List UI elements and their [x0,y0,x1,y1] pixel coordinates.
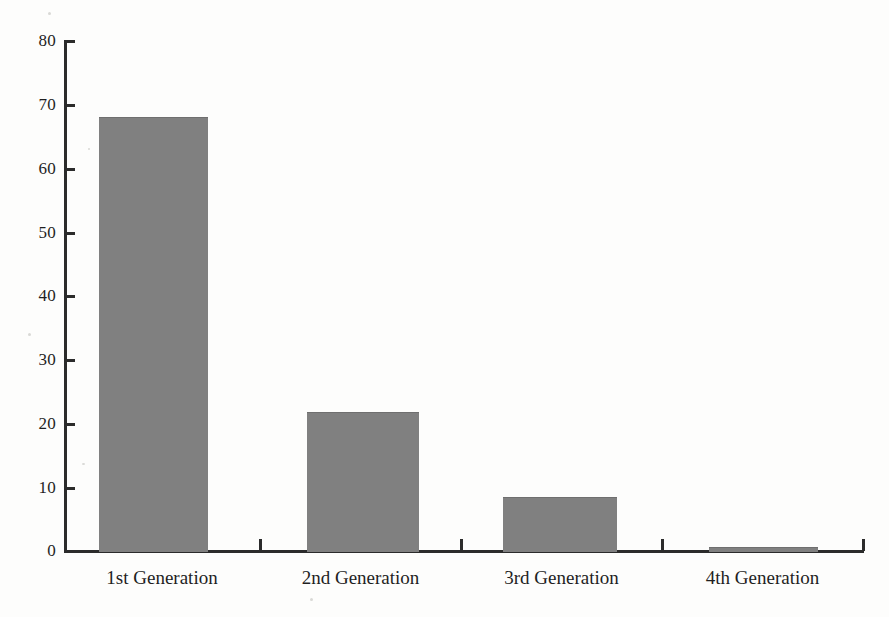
scan-speck [48,12,51,15]
scan-speck [310,598,313,601]
y-axis-label-0: 0 [12,542,56,559]
x-axis-label-1st-generation: 1st Generation [64,566,260,590]
y-axis-label-30: 30 [12,351,56,368]
y-axis-label-70-wrap: 70 [0,96,56,113]
scan-speck [82,463,85,465]
y-axis-label-40-wrap: 40 [0,287,56,304]
bar-2nd-generation [307,412,419,552]
y-axis-tick-70 [64,104,75,107]
x-axis-tick-2 [460,539,463,551]
x-axis-label-3rd-generation: 3rd Generation [462,566,661,590]
y-axis-tick-30 [64,359,75,362]
bar-1st-generation [99,117,208,552]
x-axis-tick-1 [259,539,262,551]
y-axis-tick-80 [64,40,75,43]
bar-4th-generation [709,547,818,552]
y-axis-label-40: 40 [12,287,56,304]
y-axis-label-10: 10 [12,479,56,496]
y-axis-label-50-wrap: 50 [0,224,56,241]
y-axis-label-80-wrap: 80 [0,32,56,49]
y-axis-label-70: 70 [12,96,56,113]
y-axis-label-30-wrap: 30 [0,351,56,368]
x-axis-tick-4 [862,539,865,551]
y-axis-label-60: 60 [12,160,56,177]
y-axis-label-0-wrap: 0 [0,542,56,559]
x-axis-tick-3 [661,539,664,551]
scan-speck [88,148,90,150]
bar-chart: 80 70 60 50 40 30 20 10 0 1st Generation… [0,0,889,617]
x-axis-tick-0 [64,539,67,551]
x-axis-label-2nd-generation: 2nd Generation [261,566,460,590]
y-axis-label-50: 50 [12,224,56,241]
y-axis-label-20-wrap: 20 [0,415,56,432]
y-axis-tick-20 [64,423,75,426]
x-axis-label-4th-generation: 4th Generation [663,566,862,590]
y-axis-tick-40 [64,295,75,298]
y-axis-label-80: 80 [12,32,56,49]
y-axis-label-60-wrap: 60 [0,160,56,177]
y-axis-label-20: 20 [12,415,56,432]
bar-3rd-generation [503,497,617,552]
y-axis-tick-60 [64,168,75,171]
y-axis-label-10-wrap: 10 [0,479,56,496]
y-axis-tick-10 [64,487,75,490]
scan-speck [28,333,31,336]
y-axis-tick-50 [64,232,75,235]
